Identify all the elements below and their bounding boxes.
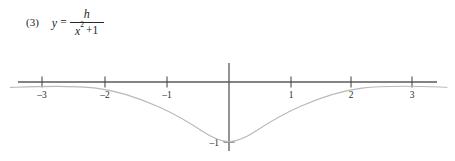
- x-tick-label-neg1: –1: [161, 90, 172, 100]
- denominator-tail: +1: [86, 24, 98, 36]
- formula-equals-sign: =: [60, 17, 67, 29]
- denominator-exponent: 2: [80, 20, 84, 29]
- x-tick-label-pos3: 3: [410, 90, 415, 100]
- formula-lhs-variable: y: [52, 17, 57, 29]
- problem-number: (3): [26, 17, 39, 28]
- x-tick-label-neg2: –2: [99, 90, 110, 100]
- fraction-denominator: x2+1: [72, 23, 101, 38]
- function-curve: [11, 86, 448, 142]
- y-tick-label-neg1: –1: [209, 138, 220, 148]
- formula-fraction: h x2+1: [70, 8, 104, 38]
- problem-formula: (3) y = h x2+1: [26, 8, 104, 38]
- x-tick-label-neg3: –3: [36, 90, 47, 100]
- x-tick-label-pos2: 2: [349, 90, 354, 100]
- x-tick-label-pos1: 1: [289, 90, 294, 100]
